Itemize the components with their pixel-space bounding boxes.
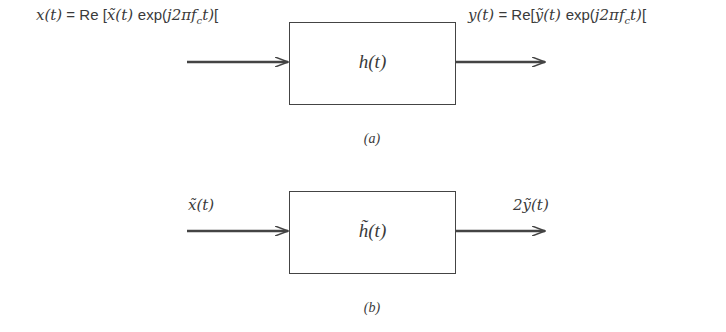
baseband-equivalent-diagram: x(t) = Re [x̃(t) exp(j2πfct)[ h(t) y(t) … [0, 0, 726, 332]
caption-b: (b) [352, 300, 392, 316]
bracket: [ [642, 6, 646, 23]
equals: = [494, 6, 511, 23]
system-block-a: h(t) [289, 22, 456, 105]
exp-t: t) [202, 6, 214, 24]
caption-a: (a) [352, 131, 392, 147]
input-signal-label-b: x̃(t) [188, 196, 214, 214]
impulse-response-label: h(t) [290, 51, 455, 73]
exp-t: t) [630, 6, 642, 24]
re-operator: Re[ [511, 6, 534, 23]
equals: = [62, 6, 79, 23]
system-block-b: h̃(t) [289, 191, 456, 274]
exp: exp( [138, 6, 167, 23]
exp: exp( [566, 6, 595, 23]
output-signal-label-b: 2ỹ(t) [513, 196, 549, 214]
output-signal-label-a: y(t) = Re[ỹ(t) exp(j2πfct)[ [468, 6, 646, 30]
exp-arg: j2πf [167, 6, 197, 24]
input-signal-label-a: x(t) = Re [x̃(t) exp(j2πfct)[ [36, 6, 218, 30]
lowpass-impulse-response-label: h̃(t) [290, 220, 455, 242]
x-tilde: x̃(t) [107, 6, 138, 24]
exp-arg: j2πf [595, 6, 625, 24]
y-tilde: ỹ(t) [535, 6, 566, 24]
re-operator: Re [ [79, 6, 107, 23]
bracket: [ [214, 6, 218, 23]
y-of-t: y(t) [468, 6, 494, 24]
x-of-t: x(t) [36, 6, 62, 24]
